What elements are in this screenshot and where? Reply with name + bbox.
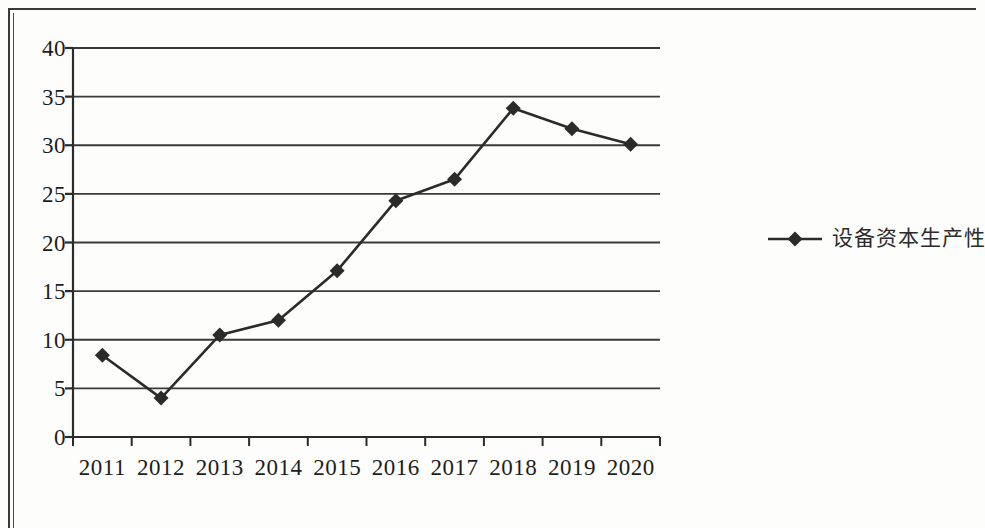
x-axis-tick-label: 2020 [591,456,671,479]
legend-diamond-line-marker-icon [766,230,824,248]
chart-legend: 设备资本生产性 [766,228,985,249]
legend-entry-label: 设备资本生产性 [832,228,985,249]
